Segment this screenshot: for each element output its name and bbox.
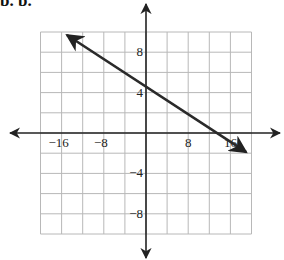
x-tick-label: −16 — [48, 135, 69, 150]
axes — [10, 4, 280, 258]
y-tick-label: −4 — [129, 165, 143, 180]
y-tick-label: 4 — [137, 85, 144, 100]
y-tick-label: −8 — [129, 206, 143, 221]
x-tick-label: 8 — [185, 135, 192, 150]
y-tick-label: 8 — [137, 44, 144, 59]
x-tick-label: −8 — [94, 135, 108, 150]
coordinate-plane: −16−881684−4−8 — [0, 0, 284, 260]
